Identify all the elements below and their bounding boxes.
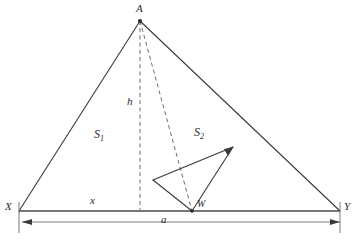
cevian-dashed-line-AW (140, 21, 192, 211)
label-area-S2-subscript: 2 (200, 132, 204, 141)
label-apex-A: A (136, 3, 143, 14)
point-W-marker (190, 209, 194, 213)
dimension-arrow-left (22, 219, 32, 225)
main-triangle-group (19, 21, 340, 211)
label-segment-x: x (90, 195, 95, 206)
apex-point-marker (138, 19, 142, 23)
label-area-S2: S2 (194, 126, 204, 141)
dimension-ticks-group (19, 202, 340, 233)
small-triangle-edge-W-to-left (153, 180, 192, 211)
label-base-a: a (161, 214, 167, 225)
label-height-h: h (127, 96, 133, 107)
small-triangle-group (153, 147, 233, 211)
small-triangle-edge-left-to-tip (153, 147, 233, 180)
label-vertex-Y: Y (344, 201, 350, 212)
label-area-S1: S1 (94, 128, 104, 143)
label-area-S1-subscript: 1 (100, 134, 104, 143)
side-XA (19, 21, 140, 211)
label-point-W: W (197, 199, 205, 209)
side-AY (140, 21, 340, 211)
geometry-canvas (0, 0, 354, 240)
geometry-figure: A X Y W h x a S1 S2 (0, 0, 354, 240)
dimension-arrow-right (330, 219, 340, 225)
base-dimension-line-group (22, 219, 340, 225)
small-triangle-arrowhead (224, 147, 233, 156)
label-vertex-X: X (5, 201, 12, 212)
